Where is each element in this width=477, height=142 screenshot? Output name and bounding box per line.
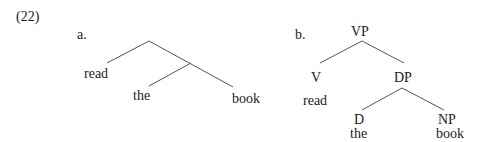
tree-b-node-np: NP bbox=[438, 113, 456, 127]
tree-b-word-read: read bbox=[303, 94, 327, 108]
tree-b-node-dp: DP bbox=[394, 71, 412, 85]
branch-b-vp-dp bbox=[362, 41, 404, 63]
branch-a-root-book bbox=[149, 41, 233, 87]
tree-b-root-vp: VP bbox=[351, 25, 369, 39]
branch-b-dp-np bbox=[402, 88, 444, 110]
branch-b-dp-d bbox=[362, 88, 402, 110]
branch-b-vp-v bbox=[320, 41, 362, 63]
tree-b-word-book: book bbox=[436, 127, 464, 141]
example-number: (22) bbox=[16, 10, 39, 24]
tree-a-leaf-read: read bbox=[84, 67, 108, 81]
branch-a-root-read bbox=[107, 41, 149, 63]
tree-a-leaf-book: book bbox=[232, 92, 260, 106]
tree-b-label: b. bbox=[295, 28, 306, 42]
tree-a-leaf-the: the bbox=[133, 89, 150, 103]
tree-b-word-the: the bbox=[350, 127, 367, 141]
tree-a-label: a. bbox=[77, 28, 87, 42]
branch-a-mid-the bbox=[149, 63, 191, 86]
tree-b-node-d: D bbox=[354, 113, 364, 127]
tree-b-node-v: V bbox=[311, 71, 321, 85]
